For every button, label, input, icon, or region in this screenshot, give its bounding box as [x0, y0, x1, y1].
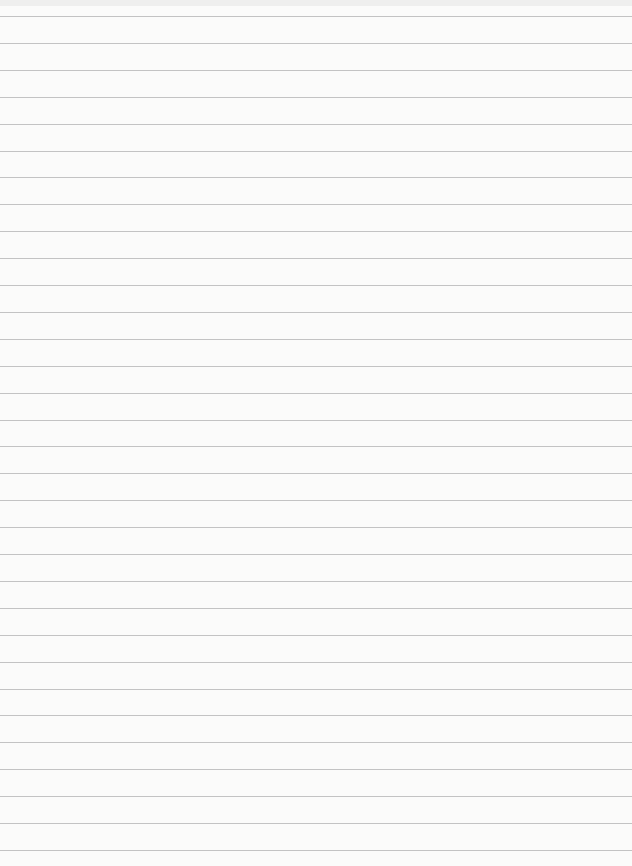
ruled-line: [0, 662, 632, 663]
paper-top-edge: [0, 0, 632, 6]
ruled-line: [0, 608, 632, 609]
ruled-line: [0, 823, 632, 824]
ruled-line: [0, 689, 632, 690]
ruled-line: [0, 500, 632, 501]
ruled-line: [0, 581, 632, 582]
ruled-line: [0, 715, 632, 716]
ruled-line: [0, 16, 632, 17]
ruled-line: [0, 527, 632, 528]
ruled-line: [0, 446, 632, 447]
ruled-line: [0, 177, 632, 178]
ruled-line: [0, 43, 632, 44]
ruled-line: [0, 70, 632, 71]
ruled-line: [0, 231, 632, 232]
ruled-line: [0, 312, 632, 313]
ruled-line: [0, 204, 632, 205]
ruled-line: [0, 742, 632, 743]
ruled-line: [0, 258, 632, 259]
ruled-line: [0, 339, 632, 340]
ruled-line: [0, 554, 632, 555]
ruled-line: [0, 393, 632, 394]
ruled-line: [0, 97, 632, 98]
ruled-line: [0, 124, 632, 125]
ruled-line: [0, 850, 632, 851]
ruled-line: [0, 635, 632, 636]
ruled-line: [0, 473, 632, 474]
ruled-line: [0, 285, 632, 286]
ruled-line: [0, 769, 632, 770]
ruled-line: [0, 796, 632, 797]
ruled-line: [0, 366, 632, 367]
ruled-line: [0, 420, 632, 421]
ruled-line: [0, 151, 632, 152]
lined-paper-sheet: [0, 0, 632, 866]
